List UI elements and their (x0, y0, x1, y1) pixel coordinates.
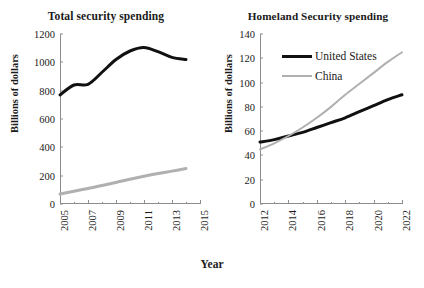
x-tick-label-right: 2018 (344, 210, 355, 231)
x-axis-label: Year (0, 258, 424, 270)
plot-area-right: United StatesChina 020406080100120140201… (260, 34, 402, 204)
line-series-united-states (260, 95, 402, 142)
x-tick-label-right: 2020 (372, 210, 383, 231)
line-series-china (60, 169, 186, 195)
chart-title-right: Homeland Security spending (212, 10, 424, 22)
x-tick-label-left: 2015 (199, 210, 210, 231)
series-group-right (260, 34, 402, 204)
chart-panel-total-security-spending: Total security spending Billions of doll… (0, 0, 212, 252)
y-tick-label-left: 800 (39, 85, 60, 96)
line-series-united-states (60, 47, 186, 94)
y-axis-label-right: Billions of dollars (223, 34, 234, 154)
x-tick-label-left: 2005 (59, 210, 70, 231)
x-tick-label-left: 2009 (115, 210, 126, 231)
y-tick-label-left: 1000 (34, 57, 60, 68)
y-tick-label-right: 80 (245, 101, 261, 112)
y-tick-label-left: 600 (39, 114, 60, 125)
x-tick-mark-right (402, 200, 403, 204)
y-tick-label-left: 400 (39, 142, 60, 153)
x-tick-mark-left (200, 200, 201, 204)
y-tick-label-left: 0 (50, 199, 60, 210)
y-tick-label-right: 40 (245, 150, 261, 161)
y-axis-label-left: Billions of dollars (9, 34, 20, 154)
figure: Total security spending Billions of doll… (0, 0, 424, 288)
x-tick-label-left: 2011 (143, 210, 154, 231)
y-tick-label-right: 140 (239, 29, 260, 40)
y-tick-label-left: 1200 (34, 29, 60, 40)
y-tick-label-right: 0 (250, 199, 260, 210)
chart-title-left: Total security spending (0, 10, 212, 22)
y-tick-label-right: 100 (239, 77, 260, 88)
x-tick-label-right: 2022 (401, 210, 412, 231)
x-tick-label-right: 2016 (315, 210, 326, 231)
y-tick-label-right: 60 (245, 126, 261, 137)
plot-area-left: 0200400600800100012002005200720092011201… (60, 34, 200, 204)
x-tick-label-right: 2014 (287, 210, 298, 231)
x-tick-label-left: 2007 (87, 210, 98, 231)
line-series-china (260, 52, 402, 149)
series-group-left (60, 34, 200, 204)
y-tick-label-right: 20 (245, 174, 261, 185)
y-tick-label-left: 200 (39, 170, 60, 181)
chart-panel-homeland-security-spending: Homeland Security spending Billions of d… (212, 0, 424, 252)
y-tick-label-right: 120 (239, 53, 260, 64)
x-tick-label-left: 2013 (171, 210, 182, 231)
x-tick-label-right: 2012 (259, 210, 270, 231)
